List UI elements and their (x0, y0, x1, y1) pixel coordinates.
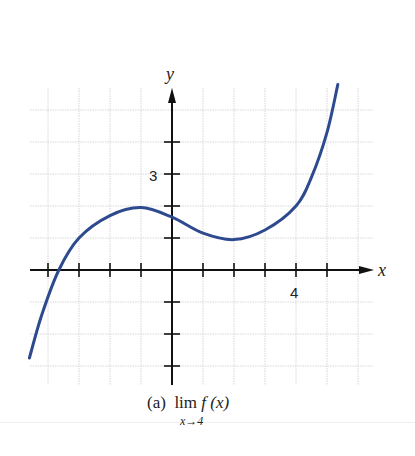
caption-func: f (x) (201, 393, 229, 412)
y-tick-label-3: 3 (149, 167, 157, 184)
x-axis-label: x (377, 260, 386, 280)
caption-lim: lim (174, 393, 197, 412)
y-axis-label: y (164, 64, 174, 84)
chart: x y 4 3 (0, 0, 415, 390)
divider (0, 422, 415, 423)
caption-part: (a) (147, 393, 166, 412)
caption-subscript: x→4 (180, 414, 203, 429)
function-curve (29, 84, 337, 358)
x-tick-label-4: 4 (290, 284, 298, 301)
caption-line: (a) lim f (x) (147, 393, 229, 413)
